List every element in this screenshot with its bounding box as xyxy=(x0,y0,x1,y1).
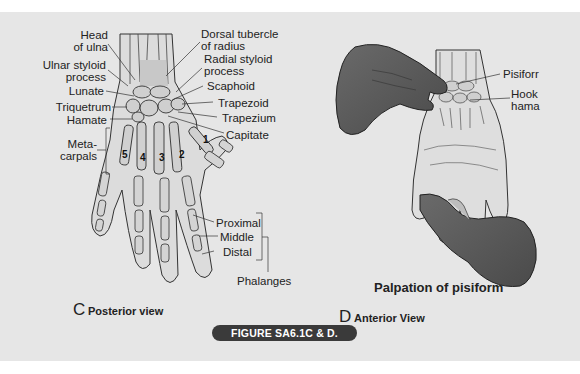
label-line: Meta- xyxy=(55,138,97,150)
metacarpal-number-3: 3 xyxy=(159,152,165,163)
label-middle-phalanx: Middle xyxy=(220,231,254,243)
label-distal-phalanx: Distal xyxy=(223,246,252,258)
label-line: hama xyxy=(511,100,540,112)
label-metacarpals: Meta- carpals xyxy=(55,138,97,162)
anterior-hand-drawing xyxy=(336,44,536,286)
label-line: Dorsal tubercle xyxy=(201,28,278,40)
label-pisiform: Pisiforr xyxy=(503,68,539,80)
metacarpal-number-5: 5 xyxy=(122,149,128,160)
label-scaphoid: Scaphoid xyxy=(207,80,255,92)
label-dorsal-tubercle-of-radius: Dorsal tubercle of radius xyxy=(201,28,278,52)
label-lunate: Lunate xyxy=(50,85,104,97)
panel-c-letter: C xyxy=(73,300,85,320)
figure-badge: FIGURE SA6.1C & D. xyxy=(212,325,357,341)
label-proximal-phalanx: Proximal xyxy=(216,217,261,229)
label-capitate: Capitate xyxy=(226,129,269,141)
metacarpal-number-2: 2 xyxy=(179,149,185,160)
palpation-title: Palpation of pisiform xyxy=(374,280,503,295)
label-line: process xyxy=(204,65,272,77)
metacarpal-number-1: 1 xyxy=(203,134,209,145)
anatomy-illustration xyxy=(0,0,580,374)
panel-c-caption: Posterior view xyxy=(88,305,163,317)
label-head-of-ulna: Head of ulna xyxy=(70,29,108,53)
label-radial-styloid-process: Radial styloid process xyxy=(204,53,272,77)
label-line: of radius xyxy=(201,40,278,52)
label-line: Ulnar styloid xyxy=(30,59,106,71)
label-line: process xyxy=(30,71,106,83)
label-ulnar-styloid-process: Ulnar styloid process xyxy=(30,59,106,83)
panel-d-letter: D xyxy=(339,307,351,327)
label-hamate: Hamate xyxy=(50,114,107,126)
label-hook-of-hamate: Hook hama xyxy=(511,88,540,112)
label-line: carpals xyxy=(55,150,97,162)
panel-d-caption: Anterior View xyxy=(354,312,425,324)
label-line: of ulna xyxy=(70,41,108,53)
label-line: Hook xyxy=(511,88,540,100)
label-phalanges: Phalanges xyxy=(237,275,291,287)
label-line: Radial styloid xyxy=(204,53,272,65)
label-trapezium: Trapezium xyxy=(222,112,276,124)
metacarpal-number-4: 4 xyxy=(140,152,146,163)
label-line: Head xyxy=(70,29,108,41)
label-trapezoid: Trapezoid xyxy=(218,97,269,109)
label-triquetrum: Triquetrum xyxy=(40,101,111,113)
